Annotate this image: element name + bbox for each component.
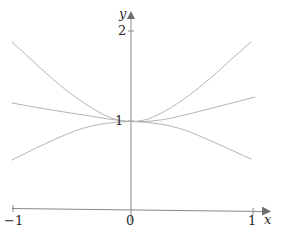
x-axis-line — [12, 209, 262, 212]
x-tick-label-neg1: −1 — [4, 214, 23, 227]
y-tick-label-2: 2 — [118, 24, 126, 37]
plot-canvas — [0, 0, 283, 234]
function-plot-figure: y 2 1 −1 0 1 x — [0, 0, 283, 234]
y-axis-arrow-icon — [127, 11, 135, 19]
x-axis-label: x — [264, 213, 271, 226]
curve-shallow — [12, 97, 255, 122]
x-tick-label-0: 0 — [126, 214, 134, 227]
y-tick-label-1: 1 — [115, 114, 123, 127]
y-axis-group — [127, 11, 135, 222]
tick-marks-group — [13, 31, 253, 215]
x-axis-group — [12, 207, 271, 216]
y-axis-label: y — [119, 7, 126, 20]
x-tick-label-1: 1 — [248, 214, 256, 227]
